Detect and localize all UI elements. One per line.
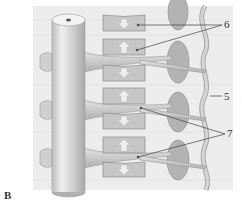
panel-label: B [4,190,11,201]
label-7: 7 [227,128,233,139]
label-6: 6 [224,19,230,30]
left-bump [40,53,52,72]
left-bump [40,149,52,168]
label-5: 5 [224,91,230,102]
trunk-center-dot [66,19,71,22]
left-bump [40,101,52,120]
diagram [0,0,242,209]
